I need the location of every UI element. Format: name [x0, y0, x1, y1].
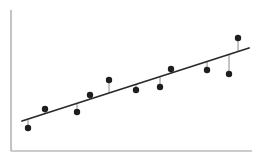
data-point	[235, 35, 241, 41]
data-point	[226, 71, 232, 77]
data-point	[106, 77, 112, 83]
residual-lines	[28, 38, 238, 128]
regression-line	[22, 48, 249, 121]
data-point	[25, 125, 31, 131]
data-point	[204, 67, 210, 73]
data-point	[74, 109, 80, 115]
data-point	[42, 106, 48, 112]
regression-line-path	[22, 48, 249, 121]
data-point	[157, 84, 163, 90]
axes	[11, 10, 252, 151]
data-points	[25, 35, 241, 131]
data-point	[87, 92, 93, 98]
data-point	[133, 87, 139, 93]
data-point	[168, 66, 174, 72]
scatter-regression-chart	[0, 0, 262, 160]
